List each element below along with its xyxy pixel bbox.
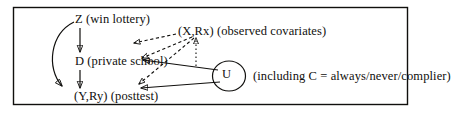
edge-z-to-y-curved [52, 22, 74, 86]
node-label-u: U [222, 68, 231, 81]
node-label-u-note: (including C = always/never/complier) [253, 70, 451, 83]
node-label-y: (Y,Ry) (posttest) [74, 90, 158, 103]
node-label-z: Z (win lottery) [75, 13, 150, 26]
node-label-d: D (private school) [75, 55, 168, 68]
edge-u-to-y [141, 82, 220, 88]
edge-x-to-z [134, 34, 176, 43]
node-label-x: (X,Rx) (observed covariates) [178, 25, 326, 38]
